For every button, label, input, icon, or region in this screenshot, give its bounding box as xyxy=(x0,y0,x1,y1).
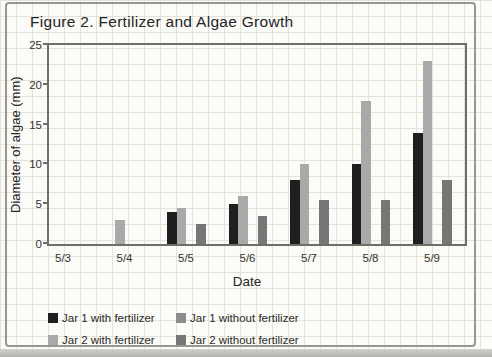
y-tick-label: 10 xyxy=(2,158,42,170)
y-tick-mark xyxy=(43,43,47,45)
legend-item: Jar 2 with fertilizer xyxy=(48,334,176,346)
y-tick-label: 20 xyxy=(2,79,42,91)
legend-label: Jar 1 with fertilizer xyxy=(62,312,155,324)
y-tick-mark xyxy=(43,202,47,204)
x-tick-label: 5/8 xyxy=(349,252,393,264)
bar xyxy=(319,200,329,244)
legend: Jar 1 with fertilizerJar 2 with fertiliz… xyxy=(48,307,299,351)
bar xyxy=(413,133,423,244)
y-tick-mark xyxy=(43,242,47,244)
bar xyxy=(238,196,248,244)
x-tick-label: 5/5 xyxy=(164,252,208,264)
bar xyxy=(290,180,300,244)
y-tick-mark xyxy=(43,83,47,85)
legend-item: Jar 2 without fertilizer xyxy=(176,334,299,346)
y-tick-mark xyxy=(43,123,47,125)
bar xyxy=(115,220,125,244)
y-tick-mark xyxy=(43,162,47,164)
legend-swatch xyxy=(176,313,186,323)
bar xyxy=(442,180,452,244)
bar xyxy=(352,164,362,244)
bar xyxy=(361,101,371,244)
bar xyxy=(423,61,433,244)
x-tick-label: 5/4 xyxy=(103,252,147,264)
bar xyxy=(177,208,187,244)
y-tick-label: 25 xyxy=(2,39,42,51)
y-tick-label: 15 xyxy=(2,119,42,131)
bar xyxy=(196,224,206,244)
x-tick-label: 5/9 xyxy=(410,252,454,264)
legend-label: Jar 2 without fertilizer xyxy=(190,334,299,346)
legend-swatch xyxy=(48,313,58,323)
plot-area xyxy=(47,43,467,246)
bar xyxy=(381,200,391,244)
y-tick-label: 5 xyxy=(2,198,42,210)
legend-item: Jar 1 without fertilizer xyxy=(176,312,299,324)
legend-item: Jar 1 with fertilizer xyxy=(48,312,176,324)
y-tick-label: 0 xyxy=(2,238,42,250)
x-axis-title: Date xyxy=(217,274,277,289)
legend-label: Jar 2 with fertilizer xyxy=(62,334,155,346)
card-bottom-edge xyxy=(0,349,492,357)
x-tick-label: 5/3 xyxy=(41,252,85,264)
bar xyxy=(258,216,268,244)
x-tick-label: 5/7 xyxy=(287,252,331,264)
chart-title: Figure 2. Fertilizer and Algae Growth xyxy=(30,13,294,31)
x-tick-label: 5/6 xyxy=(226,252,270,264)
legend-swatch xyxy=(176,335,186,345)
bar xyxy=(300,164,310,244)
legend-swatch xyxy=(48,335,58,345)
bar xyxy=(229,204,239,244)
legend-label: Jar 1 without fertilizer xyxy=(190,312,299,324)
y-axis-title: Diameter of algae (mm) xyxy=(6,43,24,246)
bar xyxy=(167,212,177,244)
